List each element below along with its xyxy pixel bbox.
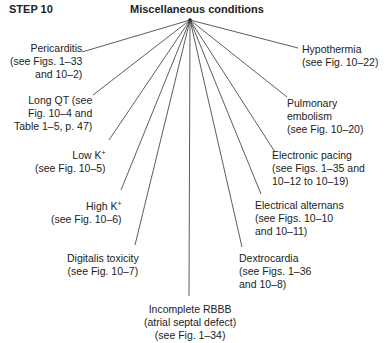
label-hypothermia: Hypothermia(see Fig. 10–22)	[302, 43, 378, 69]
label-dextrocardia: Dextrocardia(see Figs. 1–36and 10–8)	[239, 252, 311, 291]
label-pericarditis: Pericarditis(see Figs. 1–33and 10–2)	[10, 42, 82, 81]
connector-long-qt	[93, 20, 190, 95]
label-line: Low K+	[35, 146, 106, 162]
label-line: Incomplete RBBB	[144, 303, 236, 316]
connector-pericarditis	[82, 20, 190, 52]
label-high-k: High K+(see Fig. 10–6)	[51, 197, 122, 226]
label-line: 10–12 to 10–19)	[272, 175, 365, 188]
connector-dextrocardia	[190, 20, 242, 247]
label-line: Dextrocardia	[239, 252, 311, 265]
label-line: Fig. 10–4 and	[14, 107, 92, 120]
label-line: High K+	[51, 197, 122, 213]
label-line: Hypothermia	[302, 43, 378, 56]
label-line: Electronic pacing	[272, 149, 365, 162]
label-line: Digitalis toxicity	[67, 252, 139, 265]
connector-electrical-alternans	[190, 20, 261, 194]
label-line: (see Figs. 1–36	[239, 265, 311, 278]
label-line: Pericarditis	[10, 42, 82, 55]
label-electronic-pacing: Electronic pacing(see Figs. 1–35 and10–1…	[272, 149, 365, 188]
connector-low-k	[109, 20, 190, 140]
label-line: and 10–8)	[239, 278, 311, 291]
label-line: (see Fig. 1–34)	[144, 329, 236, 342]
label-pulmonary-embolism: Pulmonaryembolism(see Fig. 10–20)	[287, 97, 363, 136]
connector-incomplete-rbbb	[189, 20, 190, 296]
label-line: (see Figs. 10–10	[255, 212, 344, 225]
label-low-k: Low K+(see Fig. 10–5)	[35, 146, 106, 175]
connector-digitalis	[135, 20, 190, 245]
label-line: Pulmonary	[287, 97, 363, 110]
label-line: (see Fig. 10–6)	[51, 213, 122, 226]
label-incomplete-rbbb: Incomplete RBBB(atrial septal defect)(se…	[144, 303, 236, 342]
label-line: Long QT (see	[14, 94, 92, 107]
label-digitalis: Digitalis toxicity(see Fig. 10–7)	[67, 252, 139, 278]
label-line: (atrial septal defect)	[144, 316, 236, 329]
label-line: (see Fig. 10–20)	[287, 123, 363, 136]
label-line: and 10–11)	[255, 225, 344, 238]
label-line: and 10–2)	[10, 68, 82, 81]
label-line: Table 1–5, p. 47)	[14, 120, 92, 133]
label-line: (see Figs. 1–33	[10, 55, 82, 68]
connector-hypothermia	[190, 20, 298, 48]
label-line: (see Figs. 1–35 and	[272, 162, 365, 175]
label-line: (see Fig. 10–5)	[35, 162, 106, 175]
label-line: (see Fig. 10–22)	[302, 56, 378, 69]
label-line: (see Fig. 10–7)	[67, 265, 139, 278]
label-long-qt: Long QT (seeFig. 10–4 andTable 1–5, p. 4…	[14, 94, 92, 133]
label-electrical-alternans: Electrical alternans(see Figs. 10–10and …	[255, 199, 344, 238]
connector-electronic-pacing	[190, 20, 275, 152]
connector-high-k	[121, 20, 190, 190]
label-line: Electrical alternans	[255, 199, 344, 212]
connector-pulmonary-embolism	[190, 20, 287, 97]
label-line: embolism	[287, 110, 363, 123]
